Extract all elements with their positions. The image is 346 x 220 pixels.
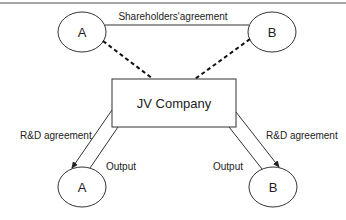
bottom-party-b: B — [249, 167, 297, 207]
right-output-label: Output — [213, 161, 243, 172]
right-rd-label: R&D agreement — [266, 130, 338, 141]
top-party-b-label: B — [268, 25, 277, 40]
jv-diagram: Shareholders'agreement A B JV Company R&… — [0, 0, 346, 220]
left-rd-label: R&D agreement — [20, 130, 92, 141]
top-party-a: A — [58, 12, 106, 52]
jv-company-label: JV Company — [137, 96, 212, 111]
shareholders-agreement-label: Shareholders'agreement — [118, 11, 227, 22]
ownership-line-a — [103, 41, 153, 79]
bottom-party-a: A — [58, 167, 106, 207]
jv-company-box: JV Company — [112, 79, 236, 127]
bottom-party-a-label: A — [78, 180, 87, 195]
ownership-line-b — [195, 39, 250, 79]
bottom-party-b-label: B — [269, 180, 278, 195]
top-party-b: B — [248, 12, 296, 52]
left-output-label: Output — [106, 161, 136, 172]
top-party-a-label: A — [78, 25, 87, 40]
